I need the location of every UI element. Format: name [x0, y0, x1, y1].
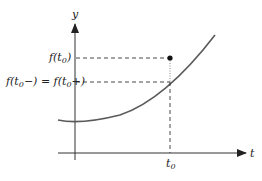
t-axis-label: t	[250, 147, 255, 160]
y-axis-label: y	[71, 8, 79, 21]
limit-label: f(t0−) = f(t0+)	[5, 75, 85, 89]
f-t0-label: f(t0)	[48, 51, 71, 65]
removable-discontinuity-diagram: y t f(t0) f(t0−) = f(t0+) t0	[0, 0, 262, 181]
f-t0-point	[167, 55, 172, 60]
t0-tick-label: t0	[166, 157, 176, 171]
